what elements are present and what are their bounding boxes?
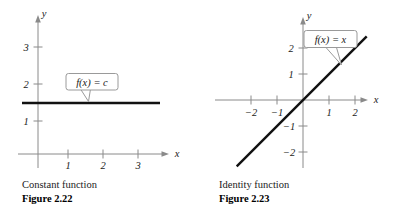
caption-block-identity: Identity function Figure 2.23 (219, 178, 389, 205)
caption-description-identity: Identity function (219, 178, 389, 191)
y-tick-label-3: 3 (22, 42, 28, 53)
caption-figure-number-identity: Figure 2.23 (219, 192, 389, 205)
y-tick-label-2: 2 (288, 43, 294, 54)
caption-figure-number-constant: Figure 2.22 (22, 192, 192, 205)
plot-area-identity-function: f(x) = x y x 2 1 −1 −2 −2 −1 1 2 (197, 0, 394, 172)
figure-constant-function: f(x) = c y x 3 2 1 1 2 3 Constant functi… (0, 0, 197, 218)
figure-identity-function: f(x) = x y x 2 1 −1 −2 −2 −1 1 2 Identit… (197, 0, 394, 218)
caption-description-constant: Constant function (22, 178, 192, 191)
x-axis-group (18, 150, 169, 159)
x-tick-label-2: 2 (352, 107, 358, 118)
y-axis-arrowhead-icon (35, 15, 41, 23)
x-tick-label-1: 1 (326, 107, 331, 118)
curve-identity-function (237, 36, 367, 166)
x-axis-label-constant: x (174, 148, 180, 159)
y-tick-label-1: 1 (288, 69, 293, 80)
constant-function-chart: f(x) = c y x 3 2 1 1 2 3 (0, 0, 197, 172)
callout-tail-constant (81, 89, 91, 102)
callout-tail-identity (326, 48, 342, 66)
y-tick-label-minus-1: −1 (283, 121, 295, 132)
callout-label-constant: f(x) = c (76, 77, 108, 89)
y-tick-label-2: 2 (23, 79, 29, 90)
x-tick-label-3: 3 (134, 160, 140, 171)
identity-function-chart: f(x) = x y x 2 1 −1 −2 −2 −1 1 2 (197, 0, 394, 172)
y-axis-group (34, 15, 43, 168)
callout-label-identity: f(x) = x (315, 34, 347, 46)
y-tick-label-1: 1 (23, 116, 28, 127)
x-axis-arrowhead-icon (361, 97, 369, 103)
x-axis-label-identity: x (373, 94, 379, 105)
x-tick-label-minus-1: −1 (271, 107, 283, 118)
y-axis-label-constant: y (41, 8, 47, 19)
x-axis-group (215, 96, 368, 105)
x-tick-label-1: 1 (65, 160, 70, 171)
x-tick-label-minus-2: −2 (245, 107, 258, 118)
y-axis-arrowhead-icon (300, 17, 306, 25)
caption-block-constant: Constant function Figure 2.22 (22, 178, 192, 205)
x-axis-arrowhead-icon (162, 151, 170, 157)
x-tick-label-2: 2 (100, 160, 106, 171)
plot-area-constant-function: f(x) = c y x 3 2 1 1 2 3 (0, 0, 197, 172)
y-axis-label-identity: y (306, 10, 312, 21)
y-tick-label-minus-2: −2 (283, 147, 296, 158)
